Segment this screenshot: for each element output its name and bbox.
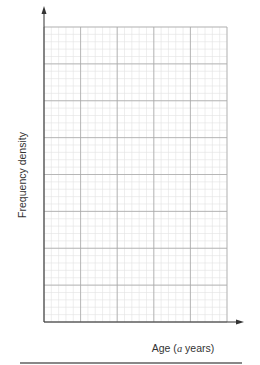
bottom-divider xyxy=(20,362,242,364)
x-axis-label: Age (a years) xyxy=(152,342,214,354)
histogram-chart: Age (a years) Frequency density xyxy=(0,0,260,365)
x-axis-arrow-icon xyxy=(236,320,244,325)
y-axis-label: Frequency density xyxy=(16,131,28,218)
y-axis-arrow-icon xyxy=(42,6,47,14)
grid xyxy=(44,27,227,322)
axes xyxy=(42,6,245,325)
